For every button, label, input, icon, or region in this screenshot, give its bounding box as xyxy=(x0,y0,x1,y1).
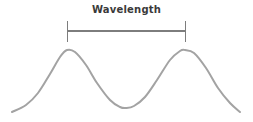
measurement-bracket xyxy=(67,21,186,42)
wavelength-diagram: Wavelength xyxy=(0,0,253,122)
wave-curve xyxy=(12,50,240,112)
wave-graphic xyxy=(0,0,253,122)
